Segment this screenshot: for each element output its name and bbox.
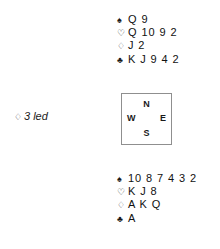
north-spades-row: ♠ Q 9 bbox=[117, 13, 180, 26]
south-clubs-cards: A bbox=[128, 212, 136, 225]
opening-lead-note: ♢3 led bbox=[14, 109, 48, 124]
south-hearts-cards: K J 8 bbox=[128, 185, 158, 198]
compass-south-label: S bbox=[122, 129, 171, 138]
spade-icon: ♠ bbox=[117, 173, 128, 186]
compass-east-label: E bbox=[160, 114, 166, 123]
lead-diamond-icon: ♢ bbox=[14, 112, 22, 122]
south-diamonds-cards: A K Q bbox=[128, 198, 161, 211]
north-spades-cards: Q 9 bbox=[128, 13, 148, 26]
south-diamonds-row: ♢ A K Q bbox=[117, 198, 197, 211]
south-clubs-row: ♣ A bbox=[117, 212, 197, 225]
north-hearts-cards: Q 10 9 2 bbox=[128, 26, 177, 39]
diamond-icon: ♢ bbox=[117, 199, 128, 212]
heart-icon: ♡ bbox=[117, 186, 128, 199]
north-hearts-row: ♡ Q 10 9 2 bbox=[117, 26, 180, 39]
compass-west-label: W bbox=[127, 114, 136, 123]
north-clubs-cards: K J 9 4 2 bbox=[128, 53, 180, 66]
spade-icon: ♠ bbox=[117, 14, 128, 27]
south-hand: ♠ 10 8 7 4 3 2 ♡ K J 8 ♢ A K Q ♣ A bbox=[117, 172, 197, 225]
north-hand: ♠ Q 9 ♡ Q 10 9 2 ♢ J 2 ♣ K J 9 4 2 bbox=[117, 13, 180, 66]
north-diamonds-cards: J 2 bbox=[128, 39, 145, 52]
compass-north-label: N bbox=[122, 100, 171, 109]
club-icon: ♣ bbox=[117, 213, 128, 226]
north-diamonds-row: ♢ J 2 bbox=[117, 39, 180, 52]
south-spades-row: ♠ 10 8 7 4 3 2 bbox=[117, 172, 197, 185]
bridge-deal-diagram: ♠ Q 9 ♡ Q 10 9 2 ♢ J 2 ♣ K J 9 4 2 N W E… bbox=[0, 0, 220, 249]
heart-icon: ♡ bbox=[117, 27, 128, 40]
lead-text: 3 led bbox=[24, 110, 48, 122]
compass-box: N W E S bbox=[121, 93, 172, 145]
south-spades-cards: 10 8 7 4 3 2 bbox=[128, 172, 197, 185]
club-icon: ♣ bbox=[117, 54, 128, 67]
south-hearts-row: ♡ K J 8 bbox=[117, 185, 197, 198]
north-clubs-row: ♣ K J 9 4 2 bbox=[117, 53, 180, 66]
diamond-icon: ♢ bbox=[117, 40, 128, 53]
